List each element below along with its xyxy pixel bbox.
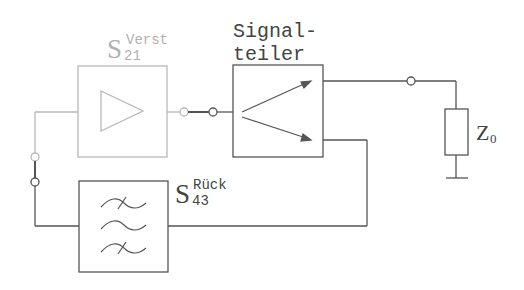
splitter-input-terminal	[209, 108, 217, 116]
bandpass-filter-icon	[101, 197, 146, 254]
load-label: Z 0	[476, 120, 497, 146]
svg-text:0: 0	[490, 131, 497, 146]
svg-text:Z: Z	[476, 120, 489, 145]
svg-text:teiler: teiler	[233, 43, 305, 66]
signal-splitter-arrows-icon	[242, 81, 311, 141]
amplifier-triangle-icon	[101, 91, 143, 131]
svg-text:Verst: Verst	[126, 32, 168, 48]
amp-input-terminal	[31, 153, 39, 161]
amplifier-box	[78, 66, 167, 157]
svg-text:21: 21	[124, 48, 141, 64]
splitter-box	[233, 65, 323, 157]
feedback-label: S 43 Rück	[175, 177, 227, 209]
main-wiring	[31, 65, 468, 272]
amp-output-terminal	[180, 108, 188, 116]
svg-text:Signal-: Signal-	[233, 20, 317, 43]
amplifier-label: S 21 Verst	[107, 32, 168, 64]
feedback-output-terminal	[31, 178, 39, 186]
svg-text:43: 43	[192, 193, 209, 209]
svg-text:S: S	[175, 179, 190, 209]
filter-box	[79, 181, 168, 272]
svg-text:Rück: Rück	[193, 177, 227, 193]
circuit-diagram: S 21 Verst	[0, 0, 524, 290]
svg-text:S: S	[107, 34, 122, 64]
resistor-icon	[445, 109, 468, 155]
splitter-label: Signal- teiler	[233, 20, 317, 66]
output-terminal	[407, 77, 415, 85]
amplifier-block	[31, 66, 188, 161]
